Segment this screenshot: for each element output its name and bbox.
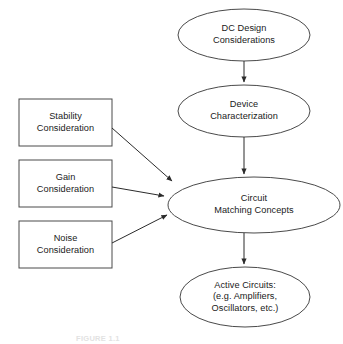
node-shape-gain xyxy=(19,160,112,207)
figure-diagram: DC Design Considerations Device Characte… xyxy=(0,0,343,344)
node-shape-device-characterization xyxy=(178,85,310,137)
node-shape-stability xyxy=(19,99,112,146)
figure-caption: FIGURE 1.1 xyxy=(76,334,120,343)
node-shape-noise xyxy=(19,221,112,268)
flow-diagram-canvas xyxy=(0,0,343,344)
edge-noise-to-circuit-matching xyxy=(112,215,167,243)
edge-stability-to-circuit-matching xyxy=(112,128,172,181)
node-shape-active-circuits xyxy=(180,267,310,327)
edge-gain-to-circuit-matching xyxy=(112,187,164,196)
node-shape-circuit-matching xyxy=(168,177,340,233)
node-shape-dc-design xyxy=(178,9,310,61)
